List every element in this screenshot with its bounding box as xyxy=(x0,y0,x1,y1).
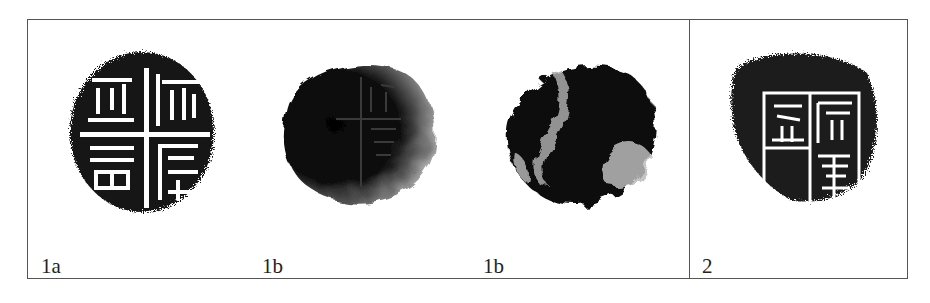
seal-photo-1b-back xyxy=(500,57,665,212)
panel-label-1a: 1a xyxy=(41,256,61,277)
seal-photo-1b-front xyxy=(276,57,441,212)
panel-label-2: 2 xyxy=(702,256,713,277)
seal-rubbing-2 xyxy=(722,48,887,218)
panel-label-1b-front: 1b xyxy=(262,256,283,277)
panel-divider xyxy=(689,19,690,279)
panel-label-1b-back: 1b xyxy=(483,256,504,277)
seal-rubbing-1a xyxy=(58,44,223,219)
